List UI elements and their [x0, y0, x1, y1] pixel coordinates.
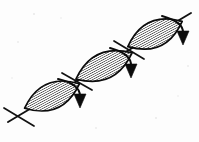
figure-container [0, 0, 199, 142]
wave-diagram [0, 0, 199, 142]
